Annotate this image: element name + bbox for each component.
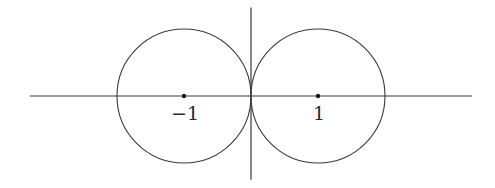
center-dot-one (316, 94, 320, 98)
center-dot-minus-one (182, 94, 186, 98)
label-minus-one: −1 (171, 102, 199, 124)
two-circles-diagram: −1 1 (0, 0, 495, 188)
label-one: 1 (313, 102, 325, 124)
